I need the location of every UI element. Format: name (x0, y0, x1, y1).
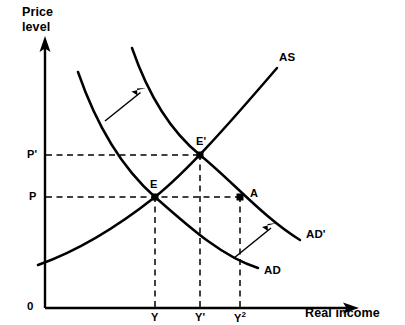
point-marker-a (237, 194, 244, 201)
y-axis-title-line2: level (22, 20, 50, 34)
x-tick-label-y2: Y2 (234, 311, 246, 324)
x-tick-label-y2-exponent: 2 (241, 310, 246, 319)
point-marker-e-prime (197, 152, 204, 159)
point-label-a: A (250, 187, 258, 199)
ad-curve (78, 72, 258, 268)
y-axis-title-line1: Price (22, 5, 53, 19)
ad-prime-curve (132, 48, 300, 240)
ad-as-diagram: Price level Real income 0 P' P Y Y' Y2 E… (0, 0, 405, 325)
x-tick-label-y: Y (151, 311, 158, 323)
point-marker-e (152, 194, 159, 201)
y-tick-label-p: P (29, 190, 36, 202)
curve-label-ad: AD (264, 264, 281, 277)
diagram-canvas (0, 0, 405, 325)
curve-label-ad-prime: AD' (306, 228, 326, 241)
guide-lines-group (46, 155, 240, 307)
x-axis-title: Real income (305, 306, 380, 320)
point-label-e: E (150, 178, 157, 190)
ad-shift-arrow-upper (105, 88, 146, 121)
point-label-e-prime: E' (196, 135, 206, 147)
origin-label: 0 (27, 300, 34, 313)
x-tick-label-y-prime: Y' (195, 311, 205, 323)
as-curve (38, 68, 277, 265)
y-tick-label-p-prime: P' (27, 148, 37, 160)
curve-label-as: AS (279, 51, 295, 64)
